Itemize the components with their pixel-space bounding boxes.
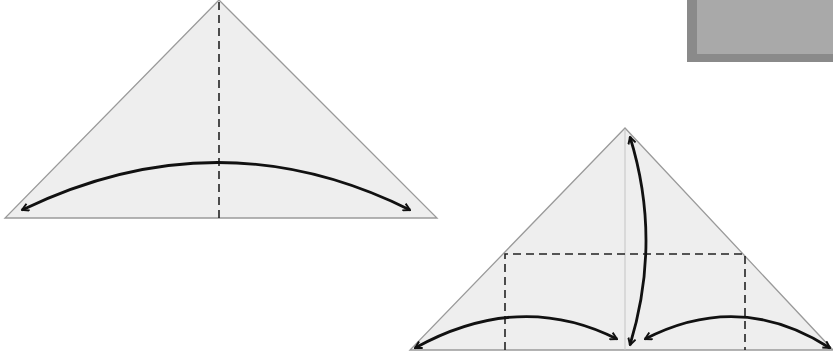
step-2-triangle bbox=[410, 128, 833, 350]
origami-diagram bbox=[0, 0, 833, 361]
step-1-triangle bbox=[5, 0, 437, 218]
